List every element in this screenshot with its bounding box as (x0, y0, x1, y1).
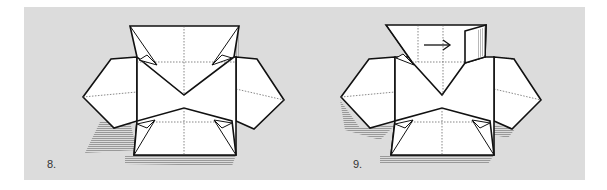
step-9-figure (340, 25, 541, 164)
right-flap (494, 57, 541, 129)
step-8-figure (83, 26, 284, 166)
step-8-label: 8. (47, 158, 56, 170)
step-9-label: 9. (353, 158, 362, 170)
origami-diagram (0, 0, 607, 190)
right-flap (236, 57, 284, 129)
